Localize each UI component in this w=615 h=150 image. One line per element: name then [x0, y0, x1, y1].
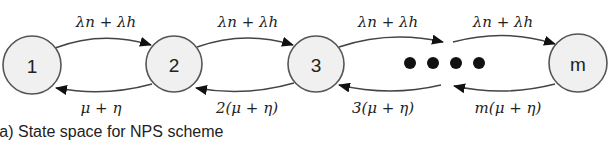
rate-label-ellipsis-3: 3(μ + η)	[352, 99, 414, 117]
rate-label-1-2: λn + λh	[75, 13, 136, 31]
rate-label-3-2: 2(μ + η)	[215, 99, 278, 117]
rate-label-2-1: μ + η	[81, 99, 122, 117]
forward-rate-labels: λn + λh λn + λh λn + λh λn + λh	[75, 13, 533, 31]
rate-label-2-3: λn + λh	[217, 13, 278, 31]
state-node-3: 3	[288, 36, 344, 92]
edge-3-to-ellipsis	[339, 37, 443, 47]
edge-ellipsis-to-3	[339, 85, 441, 91]
node-label: 3	[311, 55, 322, 76]
edge-2-to-3	[197, 38, 293, 47]
ellipsis-dot	[404, 57, 416, 69]
rate-label-ellipsis-m: λn + λh	[472, 13, 533, 31]
edge-2-to-1	[56, 84, 152, 92]
edge-3-to-2	[196, 83, 294, 92]
backward-rate-labels: μ + η 2(μ + η) 3(μ + η) m(μ + η)	[81, 99, 542, 117]
node-label: m	[570, 54, 586, 75]
rate-label-m-ellipsis: m(μ + η)	[475, 99, 542, 117]
state-node-2: 2	[146, 36, 202, 92]
edge-ellipsis-to-m	[453, 35, 555, 44]
ellipsis-dot	[427, 57, 439, 69]
state-node-m: m	[549, 34, 607, 92]
edge-m-to-ellipsis	[454, 84, 555, 91]
edge-1-to-2	[55, 38, 151, 48]
ellipsis-dot	[450, 57, 462, 69]
figure-caption: (a) State space for NPS scheme	[0, 123, 223, 141]
state-node-1: 1	[3, 36, 61, 94]
node-label: 2	[169, 55, 180, 76]
node-label: 1	[27, 56, 38, 77]
ellipsis-dots	[404, 57, 485, 69]
rate-label-3-ellipsis: λn + λh	[357, 13, 418, 31]
ellipsis-dot	[473, 57, 485, 69]
